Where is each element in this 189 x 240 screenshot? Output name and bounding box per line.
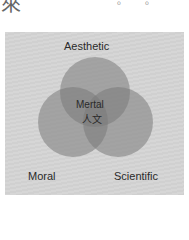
scientific-label: Scientific [114,170,158,182]
moral-label: Moral [28,170,56,182]
center-label-zh: 人文 [82,111,102,126]
center-label-en: Mertal [76,99,104,110]
aesthetic-label: Aesthetic [64,40,109,52]
